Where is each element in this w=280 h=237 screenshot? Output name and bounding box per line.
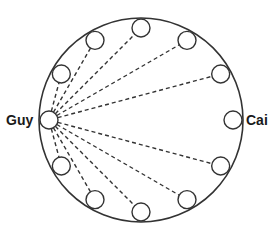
seat-node	[212, 157, 230, 175]
dashed-edge	[57, 45, 179, 116]
seat-node	[178, 31, 196, 49]
dashed-edge	[57, 125, 179, 196]
label-cai: Cai	[246, 112, 268, 128]
seat-node	[86, 191, 104, 209]
seat-node	[132, 19, 150, 37]
seat-node	[132, 203, 150, 221]
circle-diagram	[0, 0, 280, 237]
dashed-edge	[51, 129, 59, 158]
seat-nodes	[40, 19, 242, 221]
dashed-edge	[58, 76, 212, 117]
seat-node-guy	[40, 111, 58, 129]
dashed-edge	[51, 83, 59, 112]
seat-node	[212, 65, 230, 83]
seat-node	[52, 157, 70, 175]
label-guy: Guy	[6, 112, 33, 128]
outer-circle	[39, 18, 243, 222]
seat-node	[178, 191, 196, 209]
seat-node-cai	[224, 111, 242, 129]
dashed-connections	[51, 34, 212, 205]
dashed-edge	[58, 122, 212, 163]
seat-node	[52, 65, 70, 83]
seat-node	[86, 31, 104, 49]
